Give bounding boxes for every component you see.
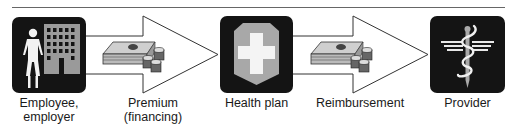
- node-provider: [430, 16, 505, 93]
- node-health-plan: [220, 16, 293, 93]
- flow-diagram: Employee, employer Premium (financing) H…: [0, 0, 515, 128]
- node-label-employee: Employee, employer: [2, 96, 96, 124]
- node-label-provider: Provider: [425, 96, 510, 110]
- edge-label-reimbursement: Reimbursement: [305, 96, 415, 110]
- node-label-health-plan: Health plan: [210, 96, 303, 110]
- building-icon: [44, 24, 80, 74]
- edge-label-premium: Premium (financing): [108, 96, 198, 124]
- node-employee: [12, 17, 86, 93]
- arrow-premium: [86, 16, 218, 93]
- arrow-reimbursement: [293, 16, 428, 93]
